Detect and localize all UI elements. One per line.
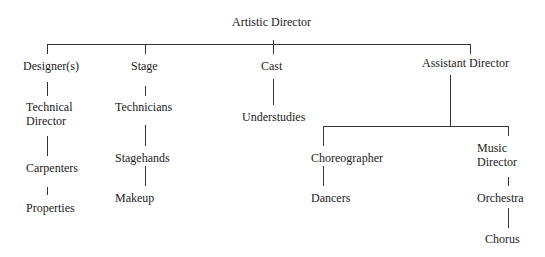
node-technical-director-line1: Technical [26, 100, 72, 114]
connector-assistant-down [450, 75, 451, 126]
node-cast: Cast [261, 59, 282, 73]
connector-assistant-bar [323, 126, 509, 127]
node-music-director-line1: Music [477, 141, 507, 155]
node-orchestra: Orchestra [477, 191, 524, 205]
connector-technicians-stagehands [145, 125, 146, 146]
connector-carpenters-properties [47, 187, 48, 195]
connector-assistant [470, 44, 471, 54]
connector-stage-technicians [145, 86, 146, 96]
node-choreographer: Choreographer [311, 151, 383, 165]
node-music-director-line2: Director [477, 155, 517, 169]
node-properties: Properties [26, 201, 75, 215]
connector-stage [145, 44, 146, 54]
node-technical-director-line2: Director [26, 114, 66, 128]
node-stage: Stage [131, 59, 158, 73]
node-technicians: Technicians [115, 100, 172, 114]
node-artistic-director: Artistic Director [232, 15, 311, 29]
node-makeup: Makeup [115, 191, 154, 205]
connector-music-orchestra [508, 177, 509, 186]
connector-music-director [508, 126, 509, 136]
connector-cast [273, 44, 274, 54]
connector-cast-understudies [273, 79, 274, 105]
connector-designers [47, 44, 48, 54]
connector-designers-technical [47, 82, 48, 96]
node-designers: Designer(s) [23, 59, 79, 73]
node-dancers: Dancers [311, 191, 350, 205]
connector-stagehands-makeup [145, 166, 146, 186]
node-understudies: Understudies [242, 110, 305, 124]
node-assistant-director: Assistant Director [422, 56, 509, 70]
node-carpenters: Carpenters [26, 161, 78, 175]
connector-choreographer [323, 126, 324, 146]
connector-top [47, 44, 471, 45]
connector-orchestra-chorus [508, 208, 509, 228]
connector-choreographer-dancers [323, 166, 324, 186]
node-chorus: Chorus [485, 232, 520, 246]
node-stagehands: Stagehands [115, 151, 170, 165]
connector-technical-carpenters [47, 136, 48, 156]
